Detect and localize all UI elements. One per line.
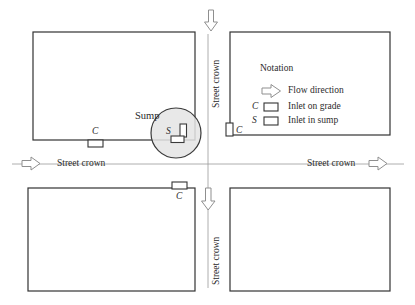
inlet-on-grade-symbol-right-label: C xyxy=(236,126,242,136)
street-crown-label-right: Street crown xyxy=(307,159,355,169)
street-crown-label-top: Street crown xyxy=(212,60,222,108)
diagram-canvas xyxy=(0,0,415,305)
inlet-on-grade-symbol-bottom-label: C xyxy=(176,192,182,202)
legend-entry-label-2: Inlet in sump xyxy=(288,116,338,126)
legend-entry-label-1: Inlet on grade xyxy=(288,102,341,112)
building-bottom-left xyxy=(28,188,195,291)
legend-inlet-on-grade-icon xyxy=(264,103,278,111)
inlet-in-sump-box-horizontal xyxy=(171,136,184,143)
flow-arrow-right-icon xyxy=(369,157,387,170)
legend-inlet-in-sump-icon xyxy=(264,117,278,125)
legend-title: Notation xyxy=(260,64,293,74)
street-crown-label-bottom: Street crown xyxy=(212,237,222,285)
inlet-on-grade-box-bottom xyxy=(172,182,187,189)
flow-arrow-top-icon xyxy=(205,10,218,31)
flow-arrow-left-icon xyxy=(22,157,40,170)
inlet-on-grade-symbol-left-label: C xyxy=(92,127,98,137)
building-bottom-right xyxy=(230,188,390,291)
inlet-on-grade-box-right xyxy=(226,123,233,136)
street-crown-label-left: Street crown xyxy=(57,159,105,169)
legend-entry-symbol-2: S xyxy=(252,116,257,126)
legend-entry-label-0: Flow direction xyxy=(288,86,344,96)
legend-entry-symbol-1: C xyxy=(252,102,258,112)
inlet-on-grade-box-left xyxy=(88,140,103,147)
drainage-inlet-diagram: Sump S C C C Street crown Street crown S… xyxy=(0,0,415,305)
inlet-in-sump-box-vertical xyxy=(180,124,187,137)
flow-arrow-middle-icon xyxy=(202,188,216,210)
sump-label: Sump xyxy=(135,111,160,122)
inlet-in-sump-symbol-label: S xyxy=(166,127,171,137)
